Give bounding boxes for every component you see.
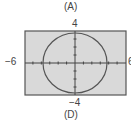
graph-window [0,0,131,128]
